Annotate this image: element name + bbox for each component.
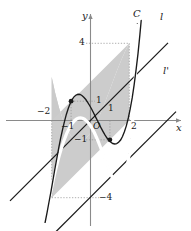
- curve-label-c: C: [133, 9, 141, 19]
- tick-label-y-neg1: −1: [74, 135, 87, 144]
- tick-label-x-neg2: −2: [37, 107, 50, 116]
- point-local-min: [108, 137, 113, 142]
- tick-label-x-pos1: 1: [108, 104, 114, 113]
- y-axis-arrow: [88, 14, 92, 19]
- tick-label-y-pos1: 1: [96, 96, 102, 105]
- line-label-l-prime: l': [163, 66, 169, 76]
- point-local-max: [69, 99, 74, 104]
- tick-label-y-pos4: 4: [79, 38, 85, 47]
- axis-label-y: y: [82, 11, 88, 21]
- origin-label: O: [93, 122, 100, 131]
- graph-figure: C l l' x y O −2 −1 1 2 1 −1 4 −4: [0, 0, 191, 231]
- tick-label-x-neg1: −1: [61, 122, 74, 131]
- tick-label-x-pos2: 2: [131, 122, 137, 131]
- axis-label-x: x: [176, 123, 182, 133]
- line-label-l: l: [160, 12, 163, 22]
- graph-canvas: [0, 0, 191, 231]
- tick-label-y-neg4: −4: [99, 193, 112, 202]
